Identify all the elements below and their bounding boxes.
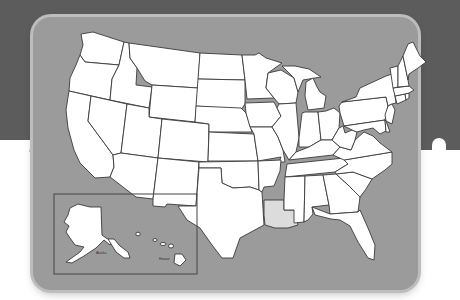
state-north-dakota[interactable] (198, 53, 245, 80)
state-montana[interactable] (129, 43, 200, 88)
us-map: Alaska Hawaii (0, 0, 460, 300)
state-hawaii-big-island[interactable] (174, 254, 186, 266)
state-hawaii-maui[interactable] (169, 244, 174, 248)
state-wyoming[interactable] (149, 85, 198, 122)
state-south-dakota[interactable] (196, 79, 245, 110)
state-arizona[interactable] (110, 153, 158, 199)
state-hawaii-molokai[interactable] (160, 243, 166, 246)
state-colorado[interactable] (158, 119, 209, 162)
state-arkansas[interactable] (258, 160, 281, 192)
state-hawaii-oahu[interactable] (153, 239, 157, 242)
state-washington[interactable] (80, 32, 124, 65)
state-michigan-lower[interactable] (305, 78, 326, 110)
state-maine[interactable] (403, 42, 426, 80)
state-new-mexico[interactable] (153, 158, 199, 207)
state-florida[interactable] (312, 207, 375, 260)
hawaii-label: Hawaii (159, 257, 170, 261)
alaska-label: Alaska (96, 251, 107, 255)
state-alaska-panhandle[interactable] (108, 239, 130, 258)
state-hawaii-kauai[interactable] (136, 232, 140, 236)
state-kansas[interactable] (208, 132, 258, 161)
